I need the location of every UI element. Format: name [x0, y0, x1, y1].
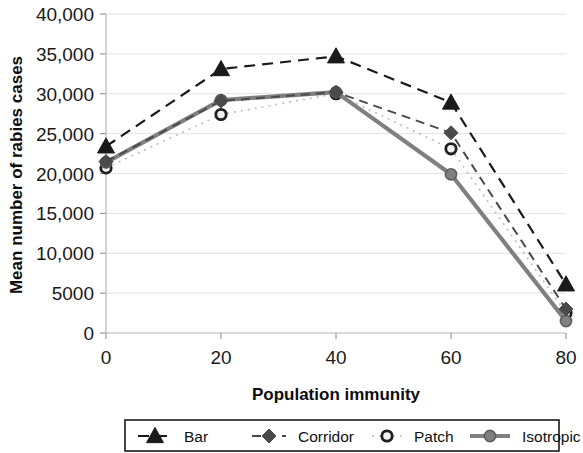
- series-line: [106, 92, 566, 309]
- y-axis-tick-label: 0: [83, 323, 94, 344]
- y-axis-tick-label: 30,000: [36, 84, 94, 105]
- data-point-marker: [216, 109, 226, 119]
- data-point-marker: [558, 276, 575, 291]
- y-axis-tick-label: 5000: [52, 283, 94, 304]
- series-bar: [98, 48, 575, 291]
- series-patch: [101, 89, 571, 319]
- rabies-cases-line-chart: 0500010,00015,00020,00025,00030,00035,00…: [0, 0, 583, 453]
- data-point-marker: [443, 94, 460, 109]
- data-point-marker: [444, 126, 458, 140]
- legend-label: Patch: [414, 428, 454, 445]
- y-axis-tick-labels-group: 0500010,00015,00020,00025,00030,00035,00…: [36, 4, 94, 344]
- x-axis-tick-label: 60: [440, 347, 461, 368]
- data-point-marker: [328, 48, 345, 63]
- x-axis-tick-label: 80: [555, 347, 576, 368]
- data-point-marker: [445, 169, 456, 180]
- x-axis-tick-label: 40: [325, 347, 346, 368]
- x-axis-tick-labels-group: 020406080: [101, 347, 577, 368]
- x-axis-title: Population immunity: [252, 385, 421, 404]
- y-axis-title: Mean number of rabies cases: [7, 56, 26, 294]
- data-point-marker: [98, 138, 115, 153]
- y-axis-tick-label: 15,000: [36, 203, 94, 224]
- series-line: [106, 92, 566, 321]
- x-axis-tick-label: 20: [210, 347, 231, 368]
- data-point-marker: [446, 144, 456, 154]
- y-axis-tick-label: 35,000: [36, 44, 94, 65]
- legend-marker: [484, 430, 495, 441]
- legend-label: Corridor: [298, 428, 354, 445]
- chart-canvas: 0500010,00015,00020,00025,00030,00035,00…: [0, 0, 583, 453]
- y-axis-tick-label: 40,000: [36, 4, 94, 25]
- y-axis-tick-label: 10,000: [36, 243, 94, 264]
- data-point-marker: [560, 315, 571, 326]
- legend-label: Bar: [184, 428, 208, 445]
- chart-legend: BarCorridorPatchIsotropic: [125, 420, 581, 451]
- data-series-group: [98, 48, 575, 327]
- x-axis-tick-label: 0: [101, 347, 112, 368]
- legend-marker: [382, 431, 392, 441]
- y-axis-tick-label: 20,000: [36, 164, 94, 185]
- series-corridor: [99, 85, 573, 316]
- legend-label: Isotropic: [522, 428, 581, 445]
- series-isotropic: [100, 87, 571, 327]
- y-axis-tick-label: 25,000: [36, 124, 94, 145]
- x-tick-marks-group: [106, 333, 566, 339]
